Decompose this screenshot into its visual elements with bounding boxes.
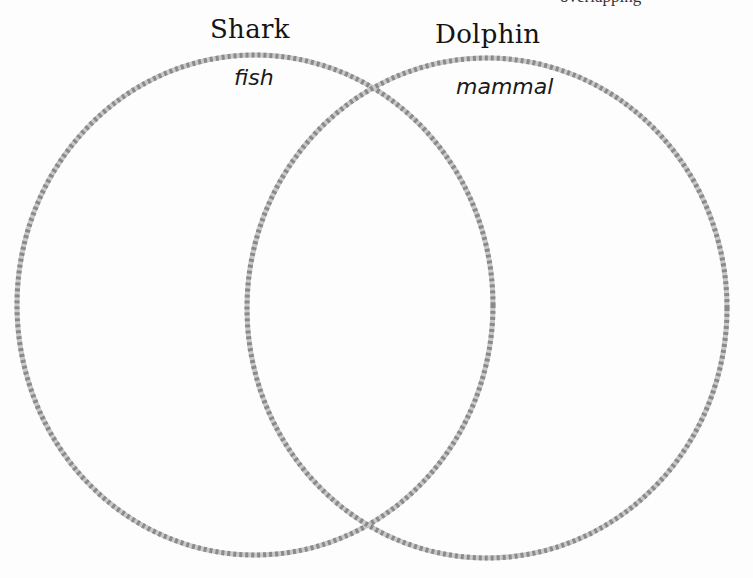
set-title-dolphin: Dolphin [435, 19, 540, 49]
shark-item-fish: fish [234, 65, 274, 90]
right-circle-dolphin [247, 58, 727, 558]
dolphin-item-mammal: mammal [456, 74, 553, 99]
set-title-shark: Shark [210, 14, 290, 44]
left-circle-shark [17, 55, 493, 555]
venn-diagram: overlapping Shark Dolphin fish mammal [0, 0, 753, 578]
venn-circles [0, 0, 753, 578]
